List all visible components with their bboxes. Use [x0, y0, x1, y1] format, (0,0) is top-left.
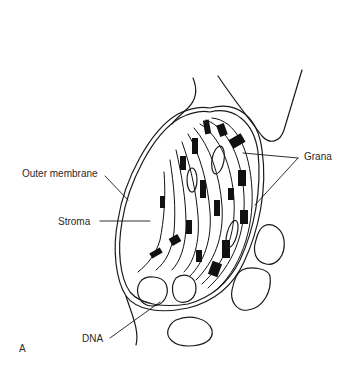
panel-label: A: [19, 343, 26, 354]
stroma-label: Stroma: [58, 216, 90, 227]
dna-label: DNA: [82, 333, 103, 344]
chloroplast-diagram: Outer membrane Stroma Grana DNA A: [0, 0, 362, 376]
dna-leader: [110, 302, 160, 338]
grana-leader-lower: [255, 158, 298, 205]
grana-label: Grana: [304, 151, 332, 162]
vesicle-right-upper: [254, 225, 284, 264]
cell-wall-left: [172, 78, 196, 124]
vesicle-right-lower: [232, 268, 271, 310]
vesicle-bottom: [168, 317, 213, 346]
dna-vesicle-2: [173, 275, 196, 302]
outer-membrane-leader: [105, 176, 128, 200]
outer-membrane-label: Outer membrane: [22, 168, 98, 179]
cell-wall-right: [218, 70, 302, 141]
grana-leader-upper: [243, 153, 298, 158]
dna-vesicle-1: [138, 277, 168, 306]
diagram-drawing: [0, 0, 362, 376]
